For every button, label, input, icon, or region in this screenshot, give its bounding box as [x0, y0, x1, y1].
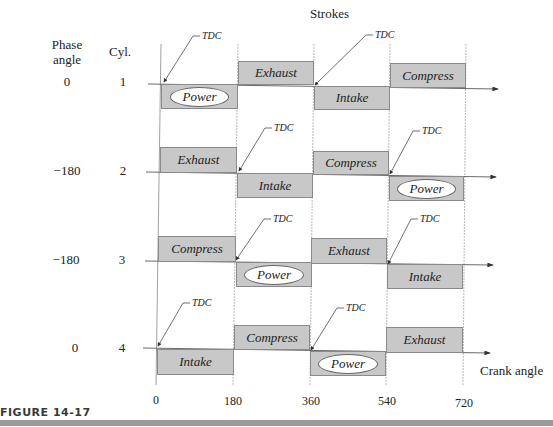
cyl3-stroke-intake: Intake	[387, 264, 463, 289]
stroke-label: Intake	[409, 269, 441, 285]
tdc-label: TDC	[346, 302, 365, 313]
cyl4-stroke-power: Power	[310, 351, 386, 376]
figure-caption: FIGURE 14-17	[0, 406, 91, 419]
cyl3-number: 3	[97, 252, 147, 268]
strokes-title: Strokes	[310, 6, 349, 22]
cyl1-stroke-power: Power	[161, 84, 238, 109]
cyl4-stroke-compress: Compress	[234, 325, 310, 350]
x-tick-360: 360	[291, 394, 331, 409]
stroke-label: Exhaust	[255, 65, 297, 81]
phase-cyl2: −180	[42, 163, 92, 179]
phase-header-line2: angle	[42, 52, 92, 67]
stroke-label: Intake	[179, 354, 211, 370]
stroke-label: Exhaust	[328, 243, 370, 259]
phase-angle-header: Phase angle	[42, 37, 92, 67]
x-tick-540: 540	[367, 394, 407, 409]
stroke-label: Compress	[171, 241, 223, 257]
stroke-label: Compress	[325, 155, 377, 171]
cyl1-stroke-intake: Intake	[314, 86, 390, 110]
cyl-header: Cyl.	[100, 44, 140, 59]
cyl3-stroke-compress: Compress	[158, 236, 236, 262]
power-ellipse: Power	[397, 179, 457, 199]
cyl2-stroke-power: Power	[389, 176, 464, 201]
cyl2-stroke-exhaust: Exhaust	[160, 147, 237, 173]
stroke-label: Exhaust	[404, 332, 446, 348]
cyl2-number: 2	[98, 163, 148, 179]
x-tick-180: 180	[213, 394, 253, 409]
tdc-label: TDC	[273, 213, 292, 224]
phase-cyl4: 0	[50, 340, 100, 356]
x-tick-720: 720	[444, 396, 484, 411]
cyl2-stroke-compress: Compress	[313, 151, 389, 175]
phase-header-line1: Phase	[42, 37, 92, 52]
cyl4-stroke-intake: Intake	[157, 349, 234, 375]
caption-bar	[0, 420, 553, 426]
tdc-label: TDC	[422, 125, 441, 136]
stroke-label: Compress	[402, 68, 454, 84]
power-ellipse: Power	[170, 87, 230, 107]
cyl3-stroke-exhaust: Exhaust	[311, 238, 387, 264]
stroke-label: Exhaust	[178, 152, 220, 168]
cyl4-stroke-exhaust: Exhaust	[386, 327, 463, 353]
cyl4-number: 4	[97, 340, 147, 356]
cyl2-stroke-intake: Intake	[237, 173, 313, 198]
power-ellipse: Power	[318, 354, 378, 374]
cyl1-stroke-compress: Compress	[390, 63, 466, 88]
stroke-label: Intake	[336, 90, 368, 106]
tdc-label: TDC	[202, 30, 221, 41]
cyl3-stroke-power: Power	[236, 262, 312, 287]
power-ellipse: Power	[244, 265, 304, 285]
cyl1-stroke-exhaust: Exhaust	[238, 61, 314, 85]
phase-cyl1: 0	[42, 74, 92, 90]
tdc-label: TDC	[420, 213, 439, 224]
tdc-label: TDC	[375, 29, 394, 40]
tdc-label: TDC	[192, 297, 211, 308]
x-tick-0: 0	[136, 393, 176, 408]
cyl1-number: 1	[98, 74, 148, 90]
stroke-label: Intake	[259, 178, 291, 194]
phase-cyl3: −180	[41, 252, 91, 268]
tdc-label: TDC	[274, 122, 293, 133]
x-axis-label: Crank angle	[480, 363, 543, 379]
stroke-label: Compress	[246, 330, 298, 346]
